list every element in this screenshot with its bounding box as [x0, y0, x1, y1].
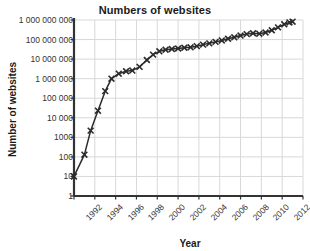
data-line	[74, 22, 293, 177]
chart-figure: Numbers of websites Number of websites Y…	[0, 0, 310, 251]
gridlines	[74, 20, 303, 196]
data-point-marker	[150, 52, 156, 58]
data-point-marker	[275, 24, 281, 30]
data-point-marker	[144, 57, 150, 63]
plot-area	[0, 0, 310, 251]
data-point-marker	[137, 64, 143, 70]
